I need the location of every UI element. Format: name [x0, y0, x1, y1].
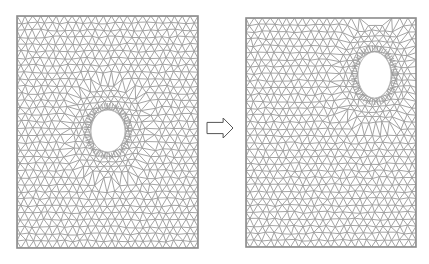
- triangle-mesh: [246, 18, 416, 247]
- elliptical-hole: [91, 110, 125, 152]
- mesh-before-panel: [17, 16, 198, 248]
- elliptical-hole: [358, 52, 391, 98]
- mesh-after-panel: [246, 18, 416, 247]
- mesh-transformation-diagram: [0, 0, 429, 264]
- arrow-shape: [207, 118, 233, 138]
- right-arrow-icon: [207, 118, 233, 138]
